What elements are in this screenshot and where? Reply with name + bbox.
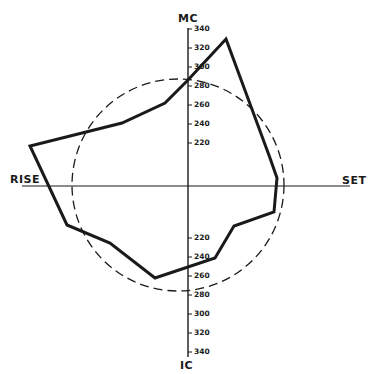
- tick-label-lower: 340: [194, 347, 210, 356]
- tick-label-upper: 220: [194, 138, 210, 147]
- tick-label-lower: 280: [194, 290, 210, 299]
- label-rise: RISE: [10, 173, 40, 186]
- tick-label-lower: 220: [194, 233, 210, 242]
- tick-label-upper: 340: [194, 24, 210, 33]
- polar-diagram: [0, 0, 371, 374]
- label-set: SET: [342, 174, 366, 187]
- tick-label-lower: 300: [194, 309, 210, 318]
- data-polygon: [30, 39, 277, 278]
- tick-label-lower: 240: [194, 252, 210, 261]
- tick-label-upper: 280: [194, 81, 210, 90]
- label-ic: IC: [180, 359, 193, 372]
- tick-label-lower: 320: [194, 328, 210, 337]
- tick-label-upper: 300: [194, 62, 210, 71]
- tick-label-lower: 260: [194, 271, 210, 280]
- tick-label-upper: 320: [194, 43, 210, 52]
- tick-label-upper: 260: [194, 100, 210, 109]
- tick-label-upper: 240: [194, 119, 210, 128]
